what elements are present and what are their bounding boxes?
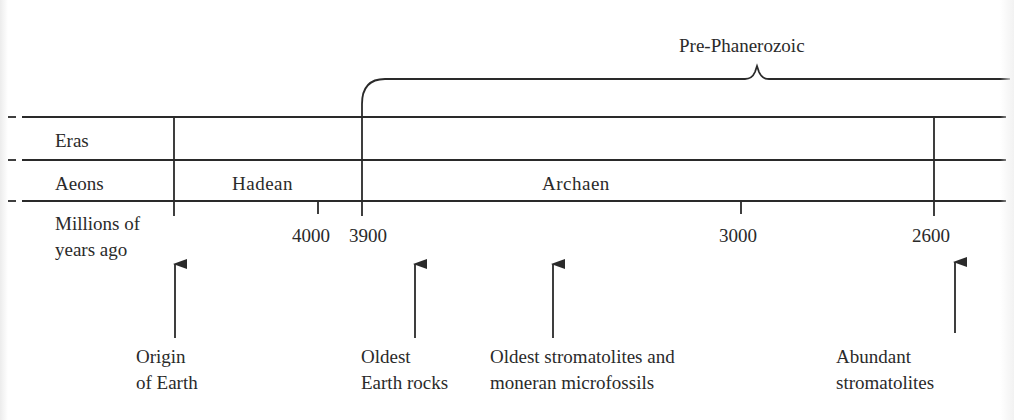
aeons-row-label: Aeons — [55, 172, 104, 196]
pre-phanerozoic-brace — [362, 66, 1010, 104]
time-row-label-1: Millions of — [55, 212, 140, 236]
page-edge-shadow-left — [0, 0, 8, 420]
eras-row-label: Eras — [55, 129, 89, 153]
event-origin-line2: of Earth — [136, 371, 198, 395]
tick-label-2600: 2600 — [912, 224, 950, 248]
event-rocks-line1: Oldest — [361, 345, 411, 369]
aeon-hadean: Hadean — [232, 172, 293, 196]
tick-label-4000: 4000 — [292, 224, 330, 248]
tick-label-3000: 3000 — [719, 224, 757, 248]
event-stromatolites-line1: Oldest stromatolites and — [490, 345, 675, 369]
event-abundant-line2: stromatolites — [836, 371, 934, 395]
time-row-label-2: years ago — [55, 238, 127, 262]
tick-label-3900: 3900 — [349, 224, 387, 248]
aeon-archaen: Archaen — [542, 172, 610, 196]
event-origin-line1: Origin — [136, 345, 186, 369]
event-rocks-line2: Earth rocks — [361, 371, 448, 395]
event-stromatolites-line2: moneran microfossils — [490, 371, 654, 395]
pre-phanerozoic-label: Pre-Phanerozoic — [679, 34, 805, 58]
page-edge-shadow — [1000, 0, 1014, 420]
event-abundant-line1: Abundant — [836, 345, 911, 369]
